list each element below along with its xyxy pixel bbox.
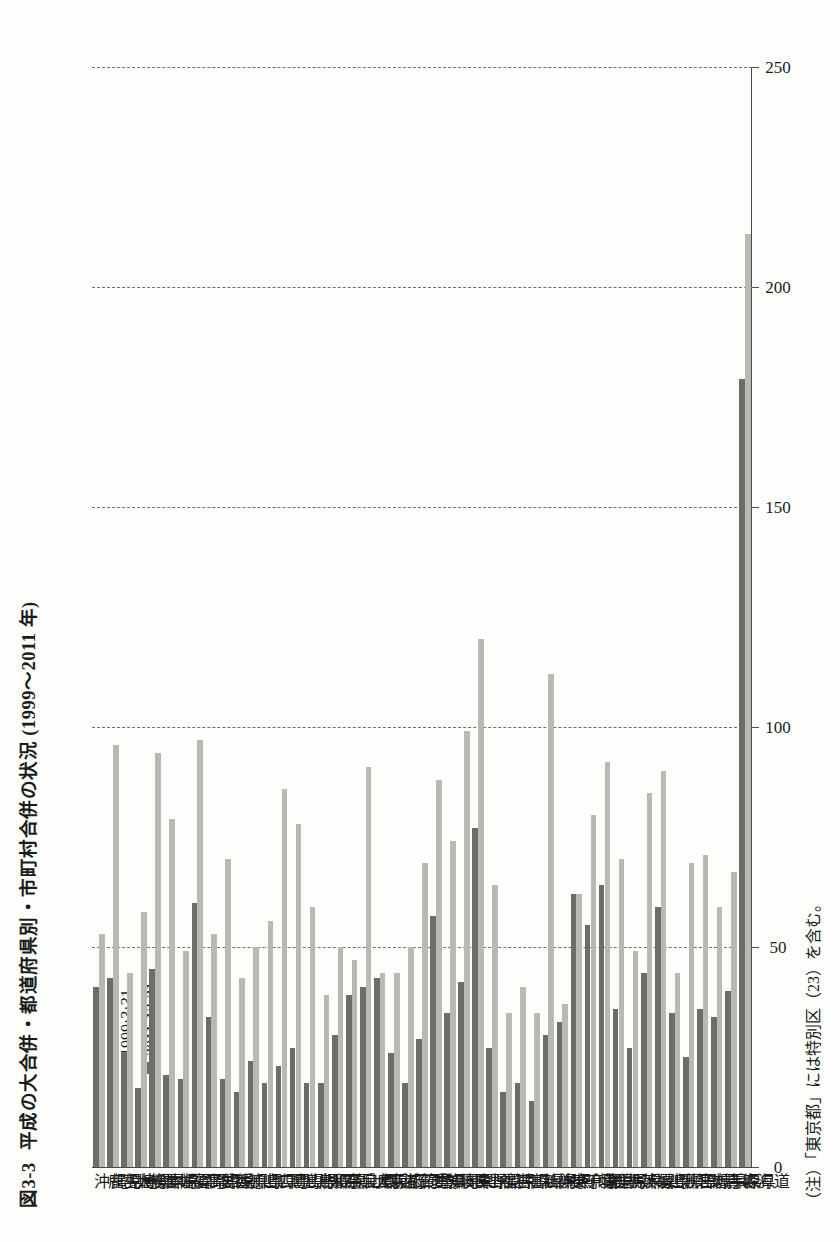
bar-1999 <box>506 1013 512 1167</box>
bar-1999 <box>422 863 428 1167</box>
bar-2011 <box>93 987 99 1167</box>
bar-group <box>218 67 232 1167</box>
bar-1999 <box>576 894 582 1167</box>
bar-group <box>232 67 246 1167</box>
bar-group <box>499 67 513 1167</box>
bar-2011 <box>430 916 436 1167</box>
bar-2011 <box>121 1053 127 1167</box>
bar-2011 <box>234 1092 240 1167</box>
bar-1999 <box>745 234 751 1167</box>
bar-2011 <box>458 982 464 1167</box>
bar-1999 <box>703 855 709 1167</box>
bar-group <box>303 67 317 1167</box>
bar-2011 <box>149 969 155 1167</box>
figure-number: 図3-3 <box>19 1162 39 1208</box>
bar-group <box>204 67 218 1167</box>
bar-group <box>120 67 134 1167</box>
bar-group <box>429 67 443 1167</box>
bar-group <box>387 67 401 1167</box>
bar-group <box>724 67 738 1167</box>
bar-2011 <box>641 973 647 1167</box>
bar-group <box>654 67 668 1167</box>
bar-group <box>162 67 176 1167</box>
page-title: 平成の大合併・都道府県別・市町村合併の状況 (1999〜2011 年) <box>19 601 39 1150</box>
bar-2011 <box>739 379 745 1167</box>
bar-2011 <box>571 894 577 1167</box>
bar-group <box>668 67 682 1167</box>
bar-2011 <box>248 1061 254 1167</box>
bar-1999 <box>253 947 259 1167</box>
bar-2011 <box>515 1083 521 1167</box>
bar-1999 <box>296 824 302 1167</box>
bar-2011 <box>206 1017 212 1167</box>
bar-group <box>373 67 387 1167</box>
bar-2011 <box>444 1013 450 1167</box>
bar-1999 <box>436 780 442 1167</box>
bar-2011 <box>388 1053 394 1167</box>
bar-group <box>148 67 162 1167</box>
bar-1999 <box>548 674 554 1167</box>
axis-tick-label: 100 <box>756 718 800 738</box>
bar-1999 <box>183 951 189 1167</box>
bar-1999 <box>169 819 175 1167</box>
bar-2011 <box>178 1079 184 1167</box>
bar-2011 <box>304 1083 310 1167</box>
bar-1999 <box>380 973 386 1167</box>
figure-title: 図3-3平成の大合併・都道府県別・市町村合併の状況 (1999〜2011 年) <box>14 601 40 1208</box>
bar-group <box>583 67 597 1167</box>
bar-group <box>134 67 148 1167</box>
bar-group <box>401 67 415 1167</box>
bar-2011 <box>135 1088 141 1167</box>
bar-2011 <box>486 1048 492 1167</box>
bar-1999 <box>647 793 653 1167</box>
bar-1999 <box>661 771 667 1167</box>
bar-2011 <box>599 885 605 1167</box>
bar-2011 <box>472 828 478 1167</box>
bar-group <box>92 67 106 1167</box>
bar-1999 <box>225 859 231 1167</box>
category-axis-line <box>92 1167 752 1168</box>
bar-group <box>710 67 724 1167</box>
plot-area: 250200150100500北海道青森県岩手県宮城県秋田県山形県福島県茨城県栃… <box>92 68 752 1168</box>
bar-2011 <box>416 1039 422 1167</box>
bar-2011 <box>557 1022 563 1167</box>
bar-group <box>738 67 752 1167</box>
bar-group <box>541 67 555 1167</box>
bar-2011 <box>360 987 366 1167</box>
bar-1999 <box>534 1013 540 1167</box>
bar-1999 <box>282 789 288 1167</box>
category-label: 沖縄県 <box>94 1174 145 1190</box>
bar-group <box>331 67 345 1167</box>
figure-footnote: （注）「東京都」には特別区（23）を含む。 <box>800 896 824 1208</box>
bar-1999 <box>394 973 400 1167</box>
bar-1999 <box>478 639 484 1167</box>
bar-group <box>359 67 373 1167</box>
axis-tick-label: 150 <box>756 498 800 518</box>
bar-group <box>471 67 485 1167</box>
bar-group <box>682 67 696 1167</box>
bar-1999 <box>464 731 470 1167</box>
bar-2011 <box>500 1092 506 1167</box>
bar-1999 <box>197 740 203 1167</box>
bar-2011 <box>585 925 591 1167</box>
bar-2011 <box>374 978 380 1167</box>
bar-group <box>106 67 120 1167</box>
bar-group <box>317 67 331 1167</box>
bar-1999 <box>520 987 526 1167</box>
bar-group <box>275 67 289 1167</box>
bar-1999 <box>141 912 147 1167</box>
bar-2011 <box>318 1083 324 1167</box>
bar-1999 <box>324 995 330 1167</box>
bar-group <box>190 67 204 1167</box>
bar-1999 <box>155 753 161 1167</box>
bar-2011 <box>220 1079 226 1167</box>
bar-2011 <box>192 903 198 1167</box>
axis-tick-label: 50 <box>756 938 800 958</box>
bar-group <box>696 67 710 1167</box>
bar-2011 <box>107 978 113 1167</box>
bar-1999 <box>717 907 723 1167</box>
bar-group <box>289 67 303 1167</box>
bar-group <box>485 67 499 1167</box>
bar-1999 <box>113 745 119 1167</box>
bar-1999 <box>633 951 639 1167</box>
